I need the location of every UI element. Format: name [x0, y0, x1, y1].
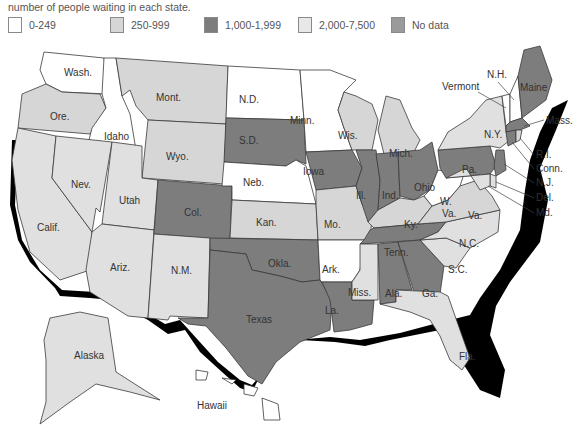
- label-ark: Ark.: [322, 264, 340, 275]
- label-calif: Calif.: [37, 222, 60, 233]
- label-nd: N.D.: [239, 94, 259, 105]
- legend-item-1000-1999: 1,000-1,999: [204, 17, 281, 33]
- label-wis: Wis.: [338, 130, 357, 141]
- label-ga: Ga.: [422, 288, 438, 299]
- leader-ri: [520, 138, 534, 155]
- label-texas: Texas: [246, 314, 272, 325]
- label-nh: N.H.: [487, 69, 507, 80]
- label-fla: Fla.: [459, 351, 476, 362]
- label-kan: Kan.: [256, 217, 277, 228]
- us-map: Wash. Ore. Calif. Idaho Nev. Mont. Wyo. …: [0, 40, 574, 426]
- label-la: La.: [325, 305, 339, 316]
- label-pa: Pa.: [462, 164, 477, 175]
- legend-swatch: [298, 17, 312, 33]
- label-va: Va.: [468, 210, 482, 221]
- label-vermont: Vermont: [442, 81, 479, 92]
- legend-label: 2,000-7,500: [319, 19, 375, 31]
- label-mont: Mont.: [156, 92, 181, 103]
- state-connecticut: [506, 130, 516, 146]
- label-mo: Mo.: [324, 219, 341, 230]
- label-sc: S.C.: [448, 264, 467, 275]
- label-col: Col.: [184, 207, 202, 218]
- legend-swatch: [204, 17, 218, 33]
- legend-item-2000-7500: 2,000-7,500: [298, 17, 375, 33]
- legend-item-no-data: No data: [391, 17, 449, 33]
- legend-label: 1,000-1,999: [225, 19, 281, 31]
- legend-label: 250-999: [131, 19, 170, 31]
- legend-label: 0-249: [29, 19, 56, 31]
- state-hawaii: [196, 370, 280, 420]
- label-ky: Ky.: [404, 219, 418, 230]
- label-del: Del.: [536, 192, 554, 203]
- label-miss: Miss.: [348, 287, 371, 298]
- label-wv-1: W.: [440, 196, 452, 207]
- label-nm: N.M.: [171, 265, 192, 276]
- state-nebraska: [222, 160, 316, 204]
- leader-conn: [512, 142, 534, 169]
- legend-label: No data: [412, 19, 449, 31]
- legend-swatch: [391, 17, 405, 33]
- state-new-mexico: [148, 234, 210, 320]
- label-ala: Ala.: [385, 288, 402, 299]
- state-alaska: [40, 312, 160, 424]
- label-mass: Mass.: [546, 115, 573, 126]
- label-ariz: Ariz.: [110, 262, 130, 273]
- label-idaho: Idaho: [104, 131, 129, 142]
- state-montana: [116, 58, 228, 124]
- legend-swatch: [8, 17, 22, 33]
- label-ri: R.I.: [536, 149, 552, 160]
- label-sd: S.D.: [239, 135, 258, 146]
- label-ny: N.Y.: [484, 129, 502, 140]
- label-maine: Maine: [520, 82, 548, 93]
- label-nc: N.C.: [459, 238, 479, 249]
- legend: 0-249 250-999 1,000-1,999 2,000-7,500 No…: [8, 17, 568, 37]
- state-michigan: [378, 96, 420, 154]
- label-ind: Ind.: [382, 190, 399, 201]
- label-ohio: Ohio: [414, 182, 436, 193]
- label-alaska: Alaska: [74, 350, 104, 361]
- label-md: Md.: [536, 207, 553, 218]
- label-conn: Conn.: [536, 163, 563, 174]
- label-nj: N.J.: [536, 177, 554, 188]
- legend-item-0-249: 0-249: [8, 17, 56, 33]
- label-iowa: Iowa: [303, 166, 325, 177]
- label-mich: Mich.: [389, 148, 413, 159]
- label-utah: Utah: [119, 195, 140, 206]
- label-tenn: Tenn.: [384, 247, 408, 258]
- label-hawaii: Hawaii: [197, 400, 227, 411]
- label-wash: Wash.: [64, 67, 92, 78]
- state-rhode-island: [516, 130, 522, 142]
- map-caption: number of people waiting in each state.: [8, 1, 191, 13]
- label-wyo: Wyo.: [166, 151, 189, 162]
- state-new-jersey: [494, 150, 506, 176]
- legend-item-250-999: 250-999: [110, 17, 170, 33]
- legend-swatch: [110, 17, 124, 33]
- label-ore: Ore.: [50, 111, 69, 122]
- label-nev: Nev.: [71, 179, 91, 190]
- state-north-dakota: [226, 66, 304, 120]
- label-minn: Minn.: [290, 115, 314, 126]
- state-delaware: [490, 174, 496, 188]
- label-ill: Ill.: [356, 190, 366, 201]
- label-wv-2: Va.: [442, 208, 456, 219]
- label-neb: Neb.: [243, 177, 264, 188]
- label-okla: Okla.: [268, 258, 291, 269]
